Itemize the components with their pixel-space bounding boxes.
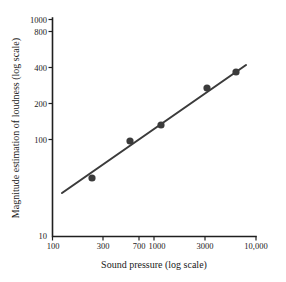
chart-canvas: 1000 800 400 200 100 10 100 300 700 1000… bbox=[0, 0, 286, 282]
y-tick-label-200: 200 bbox=[34, 99, 47, 109]
data-point bbox=[88, 174, 95, 181]
y-axis-title: Magnitude estimation of loudness (log sc… bbox=[10, 38, 22, 218]
loudness-sound-pressure-chart: 1000 800 400 200 100 10 100 300 700 1000… bbox=[0, 0, 286, 282]
y-tick-label-400: 400 bbox=[34, 63, 47, 73]
y-tick-label-800: 800 bbox=[34, 27, 47, 37]
x-tick-label-3000: 3000 bbox=[197, 241, 214, 251]
data-point bbox=[232, 68, 239, 75]
data-point bbox=[203, 84, 210, 91]
y-axis-tick-labels: 1000 800 400 200 100 10 bbox=[30, 15, 47, 242]
x-tick-label-10000: 10,000 bbox=[244, 241, 267, 251]
x-tick-label-700: 700 bbox=[133, 241, 146, 251]
data-point bbox=[126, 137, 133, 144]
y-tick-label-10: 10 bbox=[39, 231, 48, 241]
fit-line bbox=[62, 65, 246, 193]
y-tick-label-1000: 1000 bbox=[30, 15, 47, 25]
x-axis-title: Sound pressure (log scale) bbox=[101, 259, 207, 271]
x-tick-label-100: 100 bbox=[47, 241, 60, 251]
y-tick-label-100: 100 bbox=[34, 135, 47, 145]
axis-spines bbox=[53, 18, 257, 237]
x-tick-label-1000: 1000 bbox=[149, 241, 166, 251]
x-axis-tick-labels: 100 300 700 1000 3000 10,000 bbox=[47, 241, 268, 251]
data-point bbox=[157, 121, 164, 128]
x-tick-label-300: 300 bbox=[97, 241, 110, 251]
